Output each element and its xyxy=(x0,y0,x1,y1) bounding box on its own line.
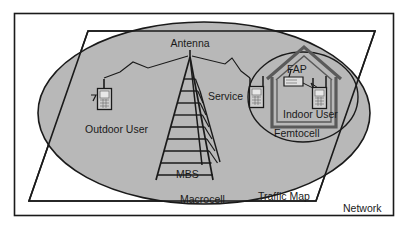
label-macrocell: Macrocell xyxy=(180,193,225,205)
diagram-canvas: Antenna Outdoor User Service FAP Indoor … xyxy=(0,0,408,229)
label-network: Network xyxy=(343,202,382,214)
label-indoor-user: Indoor User xyxy=(283,108,338,120)
network-architecture-diagram: Antenna Outdoor User Service FAP Indoor … xyxy=(0,0,408,229)
label-femtocell: Femtocell xyxy=(274,127,320,139)
label-fap: FAP xyxy=(287,63,307,75)
label-traffic-map: Traffic Map xyxy=(258,190,310,202)
label-mbs: MBS xyxy=(176,168,199,180)
label-antenna: Antenna xyxy=(170,37,209,49)
label-outdoor-user: Outdoor User xyxy=(85,123,149,135)
label-service: Service xyxy=(208,90,243,102)
